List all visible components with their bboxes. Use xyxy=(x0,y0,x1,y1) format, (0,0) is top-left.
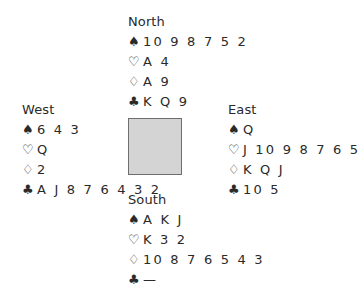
east-spades: Q xyxy=(243,120,255,140)
west-label: West xyxy=(22,100,161,120)
east-hearts: J 10 9 8 7 6 5 xyxy=(243,140,360,160)
east-label: East xyxy=(228,100,360,120)
south-diamonds: 10 8 7 6 5 4 3 xyxy=(143,250,265,270)
south-label: South xyxy=(128,190,265,210)
east-hearts-row: ♡ J 10 9 8 7 6 5 xyxy=(228,140,360,160)
diamond-icon: ♢ xyxy=(22,160,37,180)
south-diamonds-row: ♢ 10 8 7 6 5 4 3 xyxy=(128,250,265,270)
club-icon: ♣ xyxy=(128,270,143,290)
east-diamonds: K Q J xyxy=(243,160,285,180)
heart-icon: ♡ xyxy=(22,140,37,160)
east-diamonds-row: ♢ K Q J xyxy=(228,160,360,180)
east-spades-row: ♠ Q xyxy=(228,120,360,140)
heart-icon: ♡ xyxy=(128,52,143,72)
south-clubs: — xyxy=(143,270,158,290)
diamond-icon: ♢ xyxy=(128,72,143,92)
north-hearts-row: ♡ A 4 xyxy=(128,52,248,72)
spade-icon: ♠ xyxy=(128,210,143,230)
north-spades: 10 9 8 7 5 2 xyxy=(143,32,248,52)
spade-icon: ♠ xyxy=(22,120,37,140)
spade-icon: ♠ xyxy=(128,32,143,52)
north-diamonds: A 9 xyxy=(143,72,171,92)
north-label: North xyxy=(128,12,248,32)
heart-icon: ♡ xyxy=(228,140,243,160)
south-hand: South ♠ A K J ♡ K 3 2 ♢ 10 8 7 6 5 4 3 ♣… xyxy=(128,190,265,290)
north-spades-row: ♠ 10 9 8 7 5 2 xyxy=(128,32,248,52)
south-hearts: K 3 2 xyxy=(143,230,187,250)
east-hand: East ♠ Q ♡ J 10 9 8 7 6 5 ♢ K Q J ♣ 10 5 xyxy=(228,100,360,200)
south-spades: A K J xyxy=(143,210,184,230)
heart-icon: ♡ xyxy=(128,230,143,250)
diamond-icon: ♢ xyxy=(228,160,243,180)
north-hand: North ♠ 10 9 8 7 5 2 ♡ A 4 ♢ A 9 ♣ K Q 9 xyxy=(128,12,248,112)
west-spades: 6 4 3 xyxy=(37,120,81,140)
table-center xyxy=(128,118,182,175)
south-spades-row: ♠ A K J xyxy=(128,210,265,230)
diamond-icon: ♢ xyxy=(128,250,143,270)
south-hearts-row: ♡ K 3 2 xyxy=(128,230,265,250)
spade-icon: ♠ xyxy=(228,120,243,140)
west-diamonds: 2 xyxy=(37,160,47,180)
north-hearts: A 4 xyxy=(143,52,171,72)
club-icon: ♣ xyxy=(22,180,37,200)
north-diamonds-row: ♢ A 9 xyxy=(128,72,248,92)
west-hearts: Q xyxy=(37,140,49,160)
south-clubs-row: ♣ — xyxy=(128,270,265,290)
